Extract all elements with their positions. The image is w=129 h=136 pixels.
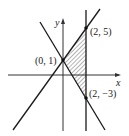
point-2-minus-3 xyxy=(84,96,88,100)
y-axis-label: y xyxy=(54,17,60,28)
y-axis-arrow-icon xyxy=(61,18,65,24)
shaded-region xyxy=(63,28,86,98)
x-axis-label: x xyxy=(115,77,121,88)
line-y-minus-2x-plus-1 xyxy=(40,22,105,130)
point-label-2-5: (2, 5) xyxy=(90,26,112,38)
point-2-5 xyxy=(84,26,88,30)
point-label-2-minus-3: (2, −3) xyxy=(89,88,116,100)
point-0-1 xyxy=(61,58,65,62)
graph-canvas: y x (0, 1) (2, 5) (2, −3) xyxy=(0,0,129,136)
point-label-0-1: (0, 1) xyxy=(35,55,57,67)
diagram: y x (0, 1) (2, 5) (2, −3) xyxy=(0,0,129,136)
